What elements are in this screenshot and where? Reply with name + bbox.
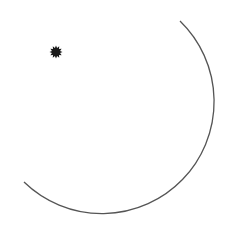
figure-svg — [0, 0, 230, 247]
figure-canvas — [0, 0, 230, 247]
star-icon — [50, 46, 63, 59]
